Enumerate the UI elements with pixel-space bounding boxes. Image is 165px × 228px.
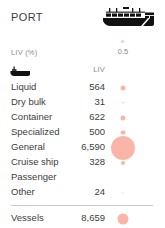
bubble-marker	[121, 130, 126, 135]
row-value: 500	[52, 126, 105, 137]
bubble-marker	[121, 161, 125, 165]
row-label: Container	[11, 111, 52, 122]
bubble-cell	[108, 185, 138, 200]
cargo-ship-icon	[101, 6, 157, 30]
bubble-marker	[118, 213, 129, 224]
bubble-cell	[108, 95, 138, 110]
row-label: Passenger	[11, 171, 56, 182]
total-label: Vessels	[11, 212, 44, 223]
total-row[interactable]: Vessels 8,659	[0, 210, 165, 227]
bubble-cell	[108, 80, 138, 95]
table-row[interactable]: Cruise ship 328	[0, 155, 165, 170]
table-row[interactable]: Liquid 564	[0, 80, 165, 95]
total-value: 8,659	[52, 212, 105, 223]
bubble-cell	[108, 155, 138, 170]
bubble-cell	[108, 110, 138, 125]
row-label: Liquid	[11, 81, 36, 92]
legend-scale-value: 0.5	[112, 47, 134, 56]
row-value: 24	[52, 186, 105, 197]
legend-size-dot-icon	[121, 40, 124, 43]
row-value: 564	[52, 81, 105, 92]
row-label: Other	[11, 186, 35, 197]
bubble-marker	[122, 102, 124, 104]
total-divider	[11, 205, 153, 206]
page-header: PORT	[0, 0, 165, 36]
row-label: Dry bulk	[11, 96, 46, 107]
table-row[interactable]: Dry bulk 31	[0, 95, 165, 110]
table-row[interactable]: Passenger	[0, 170, 165, 185]
row-value: 6,590	[52, 141, 105, 152]
data-table: Liquid 564 Dry bulk 31 Container 622 Spe…	[0, 80, 165, 200]
legend: LIV (%) 0.5	[0, 36, 165, 62]
bubble-cell	[108, 211, 138, 226]
row-value: 328	[52, 156, 105, 167]
bubble-marker	[121, 85, 126, 90]
table-row[interactable]: General 6,590	[0, 140, 165, 155]
page-title: PORT	[11, 11, 43, 23]
bubble-marker	[120, 115, 125, 120]
row-value: 31	[52, 96, 105, 107]
column-header-liv: LIV	[57, 65, 105, 74]
table-row[interactable]: Other 24	[0, 185, 165, 200]
boat-icon	[10, 63, 32, 74]
table-row[interactable]: Specialized 500	[0, 125, 165, 140]
bubble-cell	[108, 170, 138, 185]
table-row[interactable]: Container 622	[0, 110, 165, 125]
bubble-marker	[122, 192, 123, 193]
column-header-row: LIV	[0, 62, 165, 78]
row-label: General	[11, 141, 45, 152]
bubble-cell	[108, 140, 138, 155]
row-value: 622	[52, 111, 105, 122]
legend-label: LIV (%)	[11, 48, 37, 57]
